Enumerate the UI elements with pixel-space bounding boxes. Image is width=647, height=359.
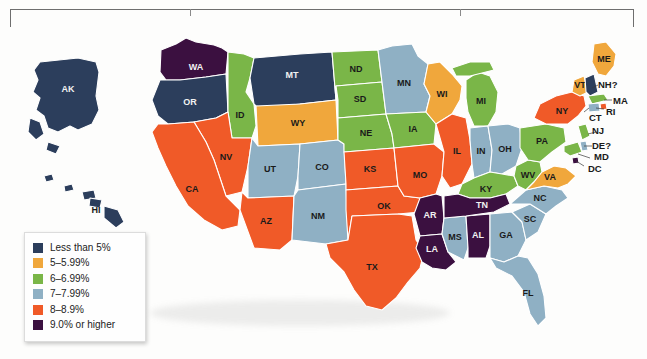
state-UT[interactable]: UT: [248, 138, 300, 198]
map-legend: Less than 5% 5–5.99% 6–6.99% 7–7.99% 8–8…: [24, 232, 146, 342]
legend-label-9-plus: 9.0% or higher: [50, 320, 115, 330]
legend-item-9-plus[interactable]: 9.0% or higher: [33, 318, 137, 334]
state-label-DE: DE?: [592, 140, 611, 151]
state-WA[interactable]: WA: [160, 38, 228, 80]
state-NM[interactable]: NM: [292, 184, 348, 244]
legend-item-6-699[interactable]: 6–6.99%: [33, 271, 137, 287]
legend-swatch-7-799: [33, 289, 43, 299]
state-AK[interactable]: AK: [28, 58, 99, 154]
legend-label-7-799: 7–7.99%: [50, 289, 89, 299]
state-label-NJ: NJ: [592, 125, 604, 136]
legend-label-5-599: 5–5.99%: [50, 258, 89, 268]
state-label-NH: NH?: [598, 79, 618, 90]
state-label-DC: DC: [588, 163, 602, 174]
state-SD[interactable]: SD: [336, 82, 386, 118]
state-CO[interactable]: CO: [298, 140, 346, 190]
state-AZ[interactable]: AZ: [240, 192, 294, 250]
choropleth-map-figure: AK HI WA OR ID MT: [0, 0, 647, 359]
state-PA[interactable]: PA: [520, 124, 566, 162]
state-NY[interactable]: NY: [534, 92, 586, 124]
state-MN[interactable]: MN: [378, 44, 430, 114]
state-IN[interactable]: IN: [470, 126, 492, 178]
legend-label-6-699: 6–6.99%: [50, 274, 89, 284]
state-ME[interactable]: ME: [592, 42, 616, 76]
legend-item-7-799[interactable]: 7–7.99%: [33, 287, 137, 303]
legend-label-lt5: Less than 5%: [50, 243, 111, 253]
legend-swatch-8-89: [33, 305, 43, 315]
state-label-CT: CT: [589, 112, 602, 123]
legend-swatch-6-699: [33, 274, 43, 284]
state-KS[interactable]: KS: [344, 148, 398, 190]
state-NE[interactable]: NE: [338, 114, 394, 152]
legend-label-8-89: 8–8.9%: [50, 305, 84, 315]
state-OR[interactable]: OR: [152, 74, 228, 124]
state-WY[interactable]: WY: [256, 100, 338, 146]
legend-item-lt5[interactable]: Less than 5%: [33, 240, 137, 256]
legend-swatch-lt5: [33, 243, 43, 253]
state-HI[interactable]: HI: [44, 174, 124, 228]
state-NJ[interactable]: [578, 124, 590, 140]
state-AL[interactable]: AL: [466, 214, 490, 258]
state-MT[interactable]: MT: [250, 52, 336, 108]
state-MO[interactable]: MO: [394, 144, 444, 198]
state-label-RI: RI: [606, 106, 616, 117]
state-label-MA: MA: [613, 95, 628, 106]
legend-swatch-9-plus: [33, 320, 43, 330]
legend-item-8-89[interactable]: 8–8.9%: [33, 302, 137, 318]
state-IA[interactable]: IA: [386, 112, 436, 148]
state-label-MD: MD: [594, 151, 609, 162]
state-MA[interactable]: [588, 94, 608, 104]
state-DC[interactable]: [572, 157, 579, 164]
state-NH[interactable]: [585, 74, 598, 96]
legend-item-5-599[interactable]: 5–5.99%: [33, 256, 137, 272]
state-ID[interactable]: ID: [228, 52, 256, 138]
legend-swatch-5-599: [33, 258, 43, 268]
state-FL[interactable]: FL: [490, 256, 546, 326]
state-MD[interactable]: [564, 142, 582, 156]
state-KY[interactable]: KY: [458, 172, 518, 198]
